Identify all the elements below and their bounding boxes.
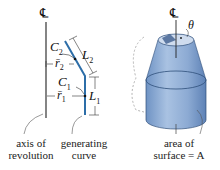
- label-r1: r̄1: [57, 89, 66, 104]
- label-r2: r̄2: [55, 57, 64, 72]
- caption-curve-line1: generating: [58, 137, 110, 149]
- caption-axis-line2: revolution: [6, 149, 56, 161]
- label-l2: L2: [82, 48, 93, 65]
- label-theta: θ: [188, 19, 194, 31]
- surface-of-revolution: [132, 20, 206, 134]
- caption-curve-line2: curve: [58, 149, 110, 161]
- caption-arrow-curve: [72, 116, 82, 134]
- label-l1: L1: [89, 89, 100, 106]
- centerline-symbol-left: ℄: [40, 6, 48, 19]
- label-c2-text: C: [50, 39, 59, 54]
- label-c1-sub: 1: [67, 83, 71, 92]
- caption-surface-area: area of surface = A: [148, 137, 210, 161]
- caption-axis-line1: axis of: [6, 137, 56, 149]
- caption-area-line2: surface = A: [148, 149, 210, 161]
- label-l1-sub: 1: [96, 97, 100, 106]
- leader-c1: [76, 87, 84, 94]
- label-l2-sub: 2: [89, 56, 93, 65]
- caption-arrow-axis: [24, 114, 43, 134]
- caption-generating-curve: generating curve: [58, 137, 110, 161]
- label-r2-sub: 2: [60, 63, 64, 72]
- label-c1-text: C: [58, 74, 67, 89]
- caption-axis-of-revolution: axis of revolution: [6, 137, 56, 161]
- label-r1-sub: 1: [62, 95, 66, 104]
- caption-area-line1: area of: [148, 137, 210, 149]
- centerline-symbol-right: ℄: [170, 6, 178, 19]
- label-c2: C2: [50, 40, 63, 57]
